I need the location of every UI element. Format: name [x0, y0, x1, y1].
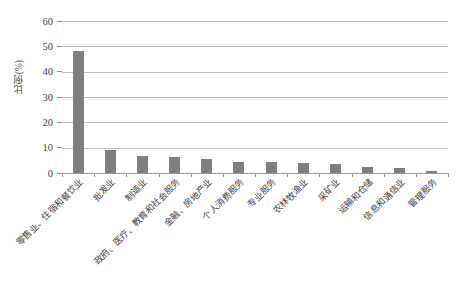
y-axis-ticks: 0102030405060 [0, 21, 62, 173]
y-axis-tick-label: 10 [43, 142, 58, 153]
y-axis-tick: 40 [43, 66, 63, 78]
bar [266, 162, 277, 173]
y-axis-tick: 50 [43, 40, 63, 52]
plot-area [62, 21, 448, 173]
x-axis-label: 制造业 [123, 177, 149, 203]
y-axis-tick-label: 30 [43, 92, 58, 103]
y-axis-tick: 30 [43, 91, 63, 103]
x-axis-label: 采矿业 [316, 177, 342, 203]
x-axis-label: 批发业 [91, 177, 117, 203]
bar [105, 150, 116, 173]
bar [201, 159, 212, 173]
x-axis-label: 管理服务 [406, 177, 439, 210]
bar [169, 157, 180, 173]
y-axis-tick-label: 40 [43, 66, 58, 77]
y-axis-tick: 10 [43, 142, 63, 154]
bar-series [62, 21, 448, 173]
y-axis-tick-label: 20 [43, 117, 58, 128]
y-axis-tick-label: 60 [43, 16, 58, 27]
bar-chart: 比例(%) 0102030405060 零售业、住宿和餐饮业批发业制造业政府、医… [0, 0, 461, 303]
x-axis-label: 专业服务 [246, 177, 279, 210]
bar [73, 51, 84, 173]
x-axis-labels: 零售业、住宿和餐饮业批发业制造业政府、医疗、教育和社会服务金融、房地产业个人消费… [0, 177, 461, 303]
y-axis-tick: 20 [43, 116, 63, 128]
x-axis-label: 零售业、住宿和餐饮业 [14, 177, 85, 248]
bar [330, 164, 341, 173]
bar [137, 156, 148, 173]
y-axis-tick: 60 [43, 15, 63, 27]
bar [298, 163, 309, 173]
bar [233, 162, 244, 173]
y-axis-tick-label: 50 [43, 41, 58, 52]
